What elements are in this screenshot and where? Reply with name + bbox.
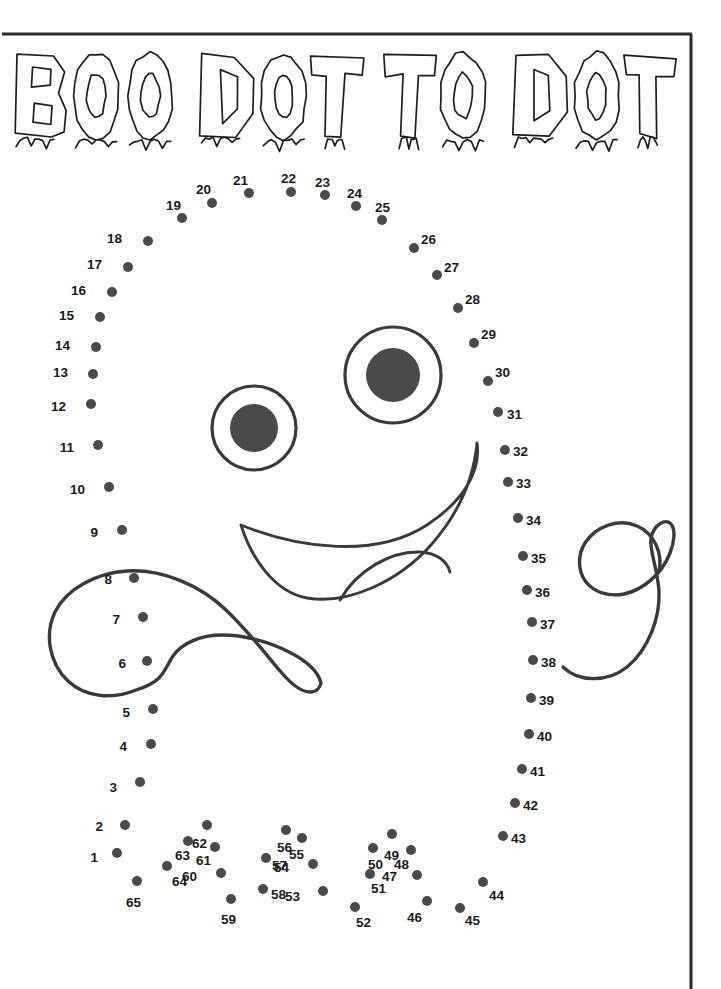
dot-marker-23[interactable] — [320, 190, 330, 200]
dot-marker-38[interactable] — [528, 655, 538, 665]
dot-marker-46[interactable] — [422, 896, 432, 906]
dot-marker-48[interactable] — [406, 845, 416, 855]
dot-marker-2[interactable] — [120, 820, 130, 830]
dot-marker-64[interactable] — [162, 861, 172, 871]
dot-12[interactable]: 12 — [51, 399, 96, 414]
dot-41[interactable]: 41 — [517, 764, 546, 779]
dot-marker-39[interactable] — [526, 693, 536, 703]
dot-21[interactable]: 21 — [233, 173, 254, 198]
dot-marker-36[interactable] — [522, 585, 532, 595]
dot-63[interactable]: 63 — [175, 836, 193, 863]
dot-marker-21[interactable] — [244, 188, 254, 198]
dot-23[interactable]: 23 — [315, 175, 331, 200]
dot-marker-65[interactable] — [132, 876, 142, 886]
dot-marker-58[interactable] — [258, 884, 268, 894]
dot-marker-47[interactable] — [412, 870, 422, 880]
dot-marker-56[interactable] — [281, 825, 291, 835]
dot-10[interactable]: 10 — [70, 482, 114, 497]
dot-marker-8[interactable] — [129, 573, 139, 583]
dot-marker-59[interactable] — [226, 894, 236, 904]
dot-16[interactable]: 16 — [71, 283, 117, 298]
dot-60[interactable]: 60 — [182, 868, 226, 884]
dot-46[interactable]: 46 — [407, 896, 432, 925]
dot-marker-40[interactable] — [524, 729, 534, 739]
dot-marker-22[interactable] — [286, 187, 296, 197]
dot-marker-15[interactable] — [95, 312, 105, 322]
dot-marker-42[interactable] — [510, 798, 520, 808]
dot-13[interactable]: 13 — [53, 365, 98, 380]
dot-marker-30[interactable] — [483, 376, 493, 386]
dot-marker-24[interactable] — [351, 201, 361, 211]
dot-31[interactable]: 31 — [493, 407, 523, 422]
dot-marker-13[interactable] — [88, 369, 98, 379]
dot-1[interactable]: 1 — [90, 848, 122, 865]
dot-marker-26[interactable] — [409, 243, 419, 253]
dot-marker-20[interactable] — [207, 198, 217, 208]
dot-22[interactable]: 22 — [281, 171, 296, 197]
dot-65[interactable]: 65 — [126, 876, 142, 910]
dot-marker-53[interactable] — [318, 886, 328, 896]
dot-39[interactable]: 39 — [526, 693, 554, 708]
dot-9[interactable]: 9 — [90, 525, 127, 540]
dot-17[interactable]: 17 — [87, 257, 133, 272]
dot-marker-57[interactable] — [261, 853, 271, 863]
dot-38[interactable]: 38 — [528, 655, 557, 670]
dot-marker-14[interactable] — [91, 342, 101, 352]
dot-50[interactable]: 50 — [368, 843, 383, 872]
dot-19[interactable]: 19 — [166, 198, 187, 223]
dot-marker-25[interactable] — [377, 215, 387, 225]
dot-marker-29[interactable] — [469, 338, 479, 348]
dot-marker-33[interactable] — [503, 477, 513, 487]
dot-33[interactable]: 33 — [503, 476, 532, 491]
dot-marker-3[interactable] — [135, 777, 145, 787]
dot-3[interactable]: 3 — [109, 777, 145, 795]
dot-58[interactable]: 58 — [258, 884, 287, 902]
dot-marker-16[interactable] — [107, 287, 117, 297]
dot-marker-17[interactable] — [123, 262, 133, 272]
dot-marker-27[interactable] — [432, 270, 442, 280]
dot-marker-18[interactable] — [143, 236, 153, 246]
dot-64[interactable]: 64 — [162, 861, 188, 889]
dot-marker-6[interactable] — [142, 656, 152, 666]
dot-26[interactable]: 26 — [409, 232, 437, 253]
dot-43[interactable]: 43 — [498, 831, 527, 846]
dot-35[interactable]: 35 — [518, 551, 547, 566]
dot-27[interactable]: 27 — [432, 260, 459, 280]
dot-marker-35[interactable] — [518, 551, 528, 561]
dot-marker-34[interactable] — [513, 513, 523, 523]
dot-40[interactable]: 40 — [524, 729, 552, 744]
dot-marker-52[interactable] — [350, 902, 360, 912]
dot-marker-44[interactable] — [478, 877, 488, 887]
dot-marker-7[interactable] — [138, 612, 148, 622]
dot-18[interactable]: 18 — [107, 231, 153, 246]
dot-59[interactable]: 59 — [221, 894, 236, 927]
dot-30[interactable]: 30 — [483, 365, 510, 386]
dot-62[interactable]: 62 — [192, 820, 212, 851]
dot-37[interactable]: 37 — [527, 617, 555, 632]
dot-marker-9[interactable] — [117, 525, 127, 535]
dot-marker-49[interactable] — [387, 829, 397, 839]
dot-42[interactable]: 42 — [510, 798, 538, 813]
dot-14[interactable]: 14 — [55, 338, 101, 353]
dot-marker-61[interactable] — [210, 842, 220, 852]
dot-marker-5[interactable] — [148, 704, 158, 714]
dot-34[interactable]: 34 — [513, 513, 542, 528]
dot-marker-12[interactable] — [86, 399, 96, 409]
dot-marker-51[interactable] — [365, 869, 375, 879]
dot-marker-54[interactable] — [308, 859, 318, 869]
dot-53[interactable]: 53 — [285, 886, 328, 904]
dot-52[interactable]: 52 — [350, 902, 371, 930]
dot-57[interactable]: 57 — [261, 853, 287, 873]
dot-56[interactable]: 56 — [277, 825, 293, 855]
dot-20[interactable]: 20 — [196, 182, 217, 208]
dot-marker-11[interactable] — [93, 440, 103, 450]
dot-marker-1[interactable] — [112, 848, 122, 858]
dot-marker-45[interactable] — [455, 903, 465, 913]
dot-28[interactable]: 28 — [453, 292, 481, 313]
dot-marker-32[interactable] — [500, 445, 510, 455]
dot-44[interactable]: 44 — [478, 877, 505, 903]
dot-marker-28[interactable] — [453, 303, 463, 313]
dot-marker-10[interactable] — [104, 482, 114, 492]
dot-49[interactable]: 49 — [384, 829, 399, 863]
dot-marker-41[interactable] — [517, 764, 527, 774]
